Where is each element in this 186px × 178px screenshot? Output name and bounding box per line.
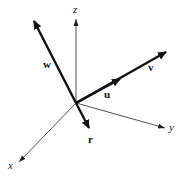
vector-w [34, 21, 76, 103]
vector-r [76, 103, 89, 128]
vector-w-label: w [43, 58, 51, 70]
y-axis-label: y [168, 121, 174, 133]
vector-v-label: v [148, 61, 154, 73]
vector-diagram: z y x w v u r [0, 0, 186, 178]
x-axis-label: x [7, 159, 13, 171]
x-axis [19, 103, 76, 162]
vector-u-label: u [104, 88, 110, 100]
vector-u [76, 79, 120, 103]
vector-r-label: r [88, 133, 93, 145]
z-axis-label: z [72, 3, 78, 15]
y-axis [76, 103, 165, 128]
